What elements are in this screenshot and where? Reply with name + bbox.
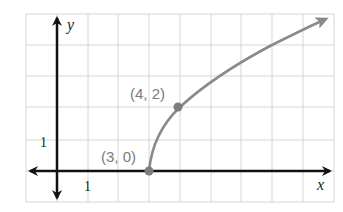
point-4-2 (174, 103, 183, 112)
x-tick-label: 1 (84, 179, 91, 194)
y-tick-label: 1 (40, 135, 47, 150)
function-curve (149, 19, 326, 171)
point-3-0 (145, 167, 154, 176)
graph: (3, 0) (4, 2) 1 1 y x (0, 0, 343, 212)
point-label-4-2: (4, 2) (130, 85, 165, 102)
y-axis-label: y (65, 16, 75, 34)
point-label-3-0: (3, 0) (101, 148, 136, 165)
x-axis-label: x (316, 176, 324, 193)
